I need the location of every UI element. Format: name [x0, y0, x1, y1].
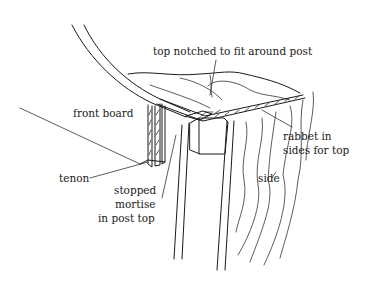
diagram-canvas: top notched to fit around post front boa… [0, 0, 369, 282]
label-mortise-line2: mortise [115, 197, 155, 211]
post [174, 110, 234, 270]
label-side: side [258, 171, 280, 185]
label-front-board: front board [73, 106, 134, 120]
label-mortise-line1: stopped [114, 183, 156, 197]
label-mortise-line3: in post top [98, 211, 155, 225]
label-rabbet-line2: sides for top [283, 143, 349, 157]
label-top-notched: top notched to fit around post [153, 44, 312, 58]
front-board [140, 104, 165, 167]
label-tenon: tenon [59, 171, 89, 185]
label-rabbet-line1: rabbet in [283, 129, 332, 143]
